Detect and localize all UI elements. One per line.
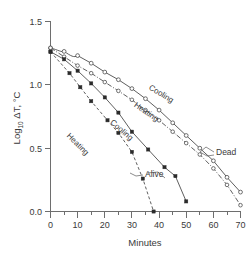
alive-label: Alive [145, 169, 164, 179]
y-axis-title-base: Log [11, 129, 22, 145]
x-axis-title: Minutes [128, 237, 162, 248]
marker-dead-cooling-4 [103, 70, 107, 74]
marker-alive-heating-4 [106, 119, 109, 122]
x-tick-label-7: 70 [235, 220, 245, 230]
marker-dead-cooling-9 [171, 121, 175, 125]
dead-leader-line-2 [200, 147, 214, 152]
marker-dead-heating-11 [198, 153, 202, 157]
marker-alive-heating-3 [90, 100, 93, 103]
marker-alive-heating-8 [152, 210, 155, 213]
marker-dead-cooling-7 [144, 97, 148, 101]
marker-dead-cooling-13 [225, 175, 229, 179]
y-axis-title: Log10 ΔT, °C [11, 91, 24, 144]
marker-dead-cooling-14 [239, 190, 243, 194]
annotation-cooling-dead: Cooling [147, 83, 175, 105]
marker-dead-cooling-5 [117, 78, 121, 82]
svg-text:Log10 ΔT, °C: Log10 ΔT, °C [11, 91, 24, 144]
curve-alive-heating-line [51, 52, 154, 212]
svg-text:Cooling: Cooling [147, 83, 175, 105]
marker-dead-heating-14 [239, 203, 243, 207]
marker-alive-heating-2 [79, 86, 82, 89]
marker-dead-cooling-11 [198, 146, 202, 150]
marker-alive-cooling-2 [76, 69, 79, 72]
marker-dead-heating-4 [103, 80, 107, 84]
x-tick-label-4: 40 [154, 220, 164, 230]
marker-dead-heating-5 [117, 89, 121, 93]
y-tick-label-2: 0.5 [29, 144, 42, 154]
annotation-dead-group: Dead [200, 147, 237, 157]
marker-alive-cooling-7 [147, 148, 150, 151]
marker-dead-heating-13 [225, 183, 229, 187]
x-tick-label-0: 0 [48, 220, 53, 230]
marker-dead-cooling-8 [157, 108, 161, 112]
y-tick-label-1: 1.0 [29, 80, 42, 90]
y-axis-tick-labels: 1.5 1.0 0.5 0.0 [29, 17, 42, 217]
marker-alive-heating-6 [130, 150, 133, 153]
chart-figure: 1.5 1.0 0.5 0.0 0 [0, 0, 251, 257]
marker-alive-heating-0 [49, 50, 52, 53]
x-axis-tick-labels: 0 10 20 30 40 50 60 70 [48, 220, 246, 230]
marker-alive-cooling-1 [63, 58, 66, 61]
marker-dead-cooling-10 [184, 134, 188, 138]
marker-dead-cooling-1 [62, 50, 66, 54]
svg-text:Heating: Heating [65, 131, 91, 157]
marker-dead-heating-0 [49, 46, 53, 50]
series-alive-heating [49, 50, 155, 213]
x-tick-label-3: 30 [127, 220, 137, 230]
marker-dead-cooling-3 [89, 61, 93, 65]
marker-dead-cooling-2 [76, 54, 80, 58]
marker-alive-cooling-4 [103, 96, 106, 99]
annotation-alive-group: Alive [130, 169, 165, 179]
marker-alive-cooling-5 [117, 111, 120, 114]
x-tick-label-2: 20 [100, 220, 110, 230]
marker-dead-cooling-6 [130, 87, 134, 91]
marker-dead-heating-6 [130, 98, 134, 102]
dead-label: Dead [216, 147, 237, 157]
marker-dead-heating-10 [184, 141, 188, 145]
x-tick-label-5: 50 [181, 220, 191, 230]
svg-text:Heating: Heating [132, 100, 160, 123]
marker-alive-cooling-10 [185, 200, 188, 203]
x-tick-label-1: 10 [73, 220, 83, 230]
marker-alive-heating-7 [141, 177, 144, 180]
annotation-heating-alive: Heating [65, 131, 91, 157]
marker-alive-cooling-9 [174, 175, 177, 178]
marker-dead-heating-12 [212, 167, 216, 171]
y-axis-title-rest: ΔT, °C [11, 91, 22, 121]
marker-dead-heating-3 [89, 71, 93, 75]
annotation-heating-dead: Heating [132, 100, 160, 123]
x-tick-label-6: 60 [208, 220, 218, 230]
marker-alive-cooling-3 [90, 82, 93, 85]
marker-dead-cooling-12 [212, 159, 216, 163]
marker-dead-heating-2 [76, 64, 80, 68]
marker-alive-heating-1 [68, 72, 71, 75]
chart-plot-area: 1.5 1.0 0.5 0.0 0 [0, 0, 251, 257]
y-tick-label-3: 0.0 [29, 207, 42, 217]
y-tick-label-0: 1.5 [29, 17, 42, 27]
marker-dead-heating-9 [171, 130, 175, 134]
